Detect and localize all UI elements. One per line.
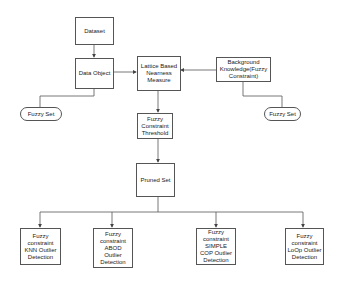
node-label: Lattice Based Nearness Measure	[139, 63, 179, 84]
node-label: Data Object	[79, 70, 111, 77]
node-dataset: Dataset	[75, 17, 114, 45]
node-label: Fuzzy Set	[269, 111, 296, 117]
node-label: Dataset	[84, 28, 105, 35]
node-knn-outlier-detection: Fuzzy constraint KNN Outlier Detection	[20, 228, 61, 265]
node-loop-outlier-detection: Fuzzy constraint LoOp Outlier Detection	[285, 228, 324, 265]
node-background-knowledge: Background Knowledge(Fuzzy Constraint)	[216, 57, 271, 82]
node-fuzzy-set-left: Fuzzy Set	[20, 107, 62, 121]
node-simple-cop-outlier-detection: Fuzzy constraint SIMPLE COP Outlier Dete…	[196, 228, 236, 265]
node-label: Pruned Set	[140, 177, 170, 184]
node-label: Fuzzy constraint KNN Outlier Detection	[22, 233, 59, 261]
node-label: Background Knowledge(Fuzzy Constraint)	[218, 59, 269, 80]
node-abod-outlier-detection: Fuzzy constraint ABOD Outlier Detection	[93, 228, 133, 268]
node-lattice-nearness-measure: Lattice Based Nearness Measure	[137, 56, 181, 91]
node-label: Fuzzy Set	[28, 111, 55, 117]
node-label: Fuzzy constraint LoOp Outlier Detection	[287, 233, 322, 261]
node-fuzzy-set-right: Fuzzy Set	[264, 107, 301, 121]
node-label: Fuzzy constraint ABOD Outlier Detection	[95, 231, 131, 266]
node-data-object: Data Object	[75, 58, 114, 89]
node-label: Fuzzy constraint SIMPLE COP Outlier Dete…	[198, 229, 234, 264]
node-label: Fuzzy Constraint Threshold	[139, 116, 171, 137]
node-fuzzy-constraint-threshold: Fuzzy Constraint Threshold	[137, 113, 173, 139]
node-pruned-set: Pruned Set	[136, 163, 175, 197]
